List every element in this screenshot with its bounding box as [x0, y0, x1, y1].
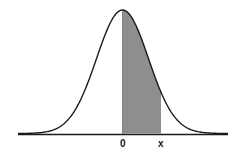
zero-label: 0 — [120, 139, 126, 149]
x-label: x — [158, 139, 164, 149]
shaded-area — [123, 10, 162, 134]
